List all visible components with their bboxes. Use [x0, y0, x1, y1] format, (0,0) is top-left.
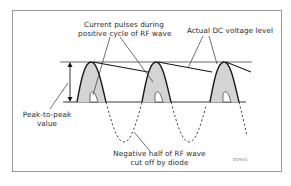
peak-to-peak-label: Peak-to-peak value [17, 111, 77, 128]
dc-level-label: Actual DC voltage level [185, 27, 275, 36]
current-pulse-2 [142, 62, 171, 102]
figure-code: D0903 [233, 157, 247, 162]
leader-lines [50, 36, 217, 151]
diode-detector-diagram: Current pulses during positive cycle of … [0, 0, 291, 186]
negative-half-wave [106, 102, 247, 142]
current-pulse-1 [77, 62, 106, 102]
current-pulses-label: Current pulses during positive cycle of … [78, 21, 170, 38]
negative-half-label: Negative half of RF wave cut off by diod… [112, 150, 207, 167]
peak-to-peak-arrow [68, 62, 73, 102]
current-pulse-3 [210, 62, 239, 102]
